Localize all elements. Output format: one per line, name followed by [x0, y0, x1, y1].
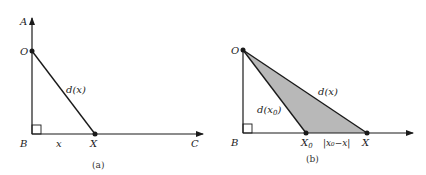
point-x0 — [304, 131, 309, 136]
point-o — [241, 48, 246, 53]
panel-b: O d(x) d(x0) B X0 |x₀−x| X (b) — [230, 45, 413, 164]
label-d-x0: d(x0) — [257, 104, 281, 117]
label-o: O — [231, 45, 239, 56]
label-a: A — [19, 16, 27, 27]
point-o — [30, 49, 35, 54]
label-x0: X0 — [300, 137, 313, 150]
label-abs-diff: |x₀−x| — [323, 138, 350, 149]
label-c: C — [191, 138, 199, 149]
caption-a: (a) — [92, 160, 104, 170]
right-angle-marker — [243, 124, 252, 133]
label-b: B — [230, 137, 238, 148]
panel-a: A O d(x) B x X C (a) — [19, 16, 203, 170]
label-o: O — [20, 46, 28, 57]
label-x-point: X — [89, 138, 98, 149]
label-b: B — [19, 138, 27, 149]
right-angle-marker — [32, 125, 41, 134]
label-d-x: d(x) — [66, 84, 86, 95]
label-x-length: x — [56, 138, 62, 149]
point-x — [365, 131, 370, 136]
diagram-canvas: A O d(x) B x X C (a) O d(x) d(x0) B X0 |… — [0, 0, 426, 175]
label-x: X — [361, 137, 370, 148]
point-x — [93, 132, 98, 137]
label-d-x: d(x) — [318, 86, 338, 97]
caption-b: (b) — [306, 154, 319, 164]
